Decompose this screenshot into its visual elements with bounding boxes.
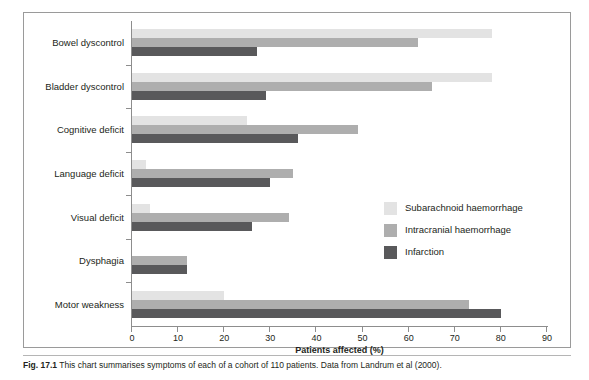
y-tick-mark (126, 195, 131, 196)
x-tick-label: 0 (129, 333, 134, 343)
category-label: Dysphagia (0, 255, 124, 266)
x-tick-label: 80 (496, 333, 506, 343)
x-tick-mark (223, 327, 224, 332)
legend-label: Infarction (405, 245, 444, 258)
x-tick-mark (315, 327, 316, 332)
category-label: Bladder dyscontrol (0, 81, 124, 92)
caption-body: This chart summarises symptoms of each o… (59, 360, 442, 370)
x-tick-mark (408, 327, 409, 332)
x-tick-label: 70 (450, 333, 460, 343)
bar (132, 291, 224, 300)
bar (132, 73, 492, 82)
x-tick-mark (131, 327, 132, 332)
bar (132, 125, 358, 134)
legend-swatch (384, 246, 397, 259)
x-axis-title: Patients affected (%) (132, 345, 547, 355)
bar-group: Bladder dyscontrol (132, 73, 547, 100)
x-tick-label: 20 (219, 333, 229, 343)
bar (132, 178, 270, 187)
category-label: Cognitive deficit (0, 124, 124, 135)
figure-container: 0102030405060708090 Bowel dyscontrolBlad… (0, 0, 589, 380)
x-axis-line (131, 326, 548, 327)
legend-label: Intracranial haemorrhage (405, 223, 511, 236)
bar (132, 222, 252, 231)
bar (132, 300, 469, 309)
x-tick-label: 30 (265, 333, 275, 343)
figure-caption: Fig. 17.1 This chart summarises symptoms… (23, 360, 583, 380)
bar (132, 204, 150, 213)
bar (132, 134, 298, 143)
x-tick-mark (269, 327, 270, 332)
bar (132, 47, 257, 56)
y-tick-mark (126, 239, 131, 240)
bar-group: Bowel dyscontrol (132, 29, 547, 56)
y-tick-mark (126, 282, 131, 283)
y-tick-mark (126, 152, 131, 153)
y-tick-mark (126, 65, 131, 66)
x-tick-mark (177, 327, 178, 332)
bar (132, 116, 247, 125)
bar (132, 256, 187, 265)
bar (132, 38, 418, 47)
x-tick-label: 60 (404, 333, 414, 343)
legend-item: Infarction (384, 243, 559, 265)
bar (132, 82, 432, 91)
x-tick-label: 50 (358, 333, 368, 343)
category-label: Visual deficit (0, 212, 124, 223)
legend-swatch (384, 224, 397, 237)
x-tick-label: 10 (173, 333, 183, 343)
x-tick-mark (546, 327, 547, 332)
legend-swatch (384, 202, 397, 215)
x-tick-mark (500, 327, 501, 332)
caption-divider (23, 355, 571, 356)
bar-group: Cognitive deficit (132, 116, 547, 143)
bar (132, 91, 266, 100)
category-label: Language deficit (0, 168, 124, 179)
category-label: Motor weakness (0, 299, 124, 310)
x-tick-mark (454, 327, 455, 332)
x-tick-label: 40 (311, 333, 321, 343)
bar (132, 169, 293, 178)
chart-frame: 0102030405060708090 Bowel dyscontrolBlad… (23, 12, 571, 348)
x-tick-mark (362, 327, 363, 332)
chart-legend: Subarachnoid haemorrhageIntracranial hae… (384, 199, 559, 265)
bar (132, 265, 187, 274)
plot-area: Bowel dyscontrolBladder dyscontrolCognit… (132, 21, 547, 326)
bar-group: Language deficit (132, 160, 547, 187)
legend-label: Subarachnoid haemorrhage (405, 201, 523, 214)
bar (132, 213, 289, 222)
legend-item: Subarachnoid haemorrhage (384, 199, 559, 221)
category-label: Bowel dyscontrol (0, 37, 124, 48)
y-tick-mark (126, 108, 131, 109)
x-tick-label: 90 (542, 333, 552, 343)
bar-group: Motor weakness (132, 291, 547, 318)
bar (132, 309, 501, 318)
caption-label: Fig. 17.1 (23, 360, 57, 370)
bar (132, 160, 146, 169)
bar (132, 29, 492, 38)
legend-item: Intracranial haemorrhage (384, 221, 559, 243)
